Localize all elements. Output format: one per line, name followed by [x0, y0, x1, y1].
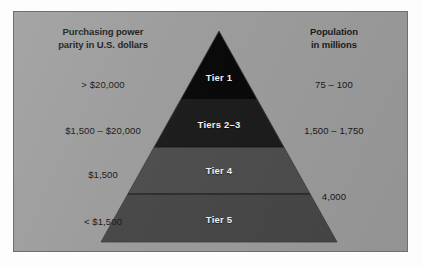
pyramid-label-tier4: Tier 4: [139, 165, 299, 176]
right-value-tier45: 4,000: [272, 191, 396, 202]
left-column-header: Purchasing power parity in U.S. dollars: [28, 26, 178, 51]
pyramid-divider-tier23-tier4: [74, 146, 364, 147]
right-column-header: Population in millions: [272, 26, 396, 51]
pyramid-label-tier1: Tier 1: [139, 72, 299, 83]
pyramid-label-tier23: Tiers 2–3: [139, 119, 299, 130]
figure-panel: Purchasing power parity in U.S. dollars …: [13, 11, 408, 252]
pyramid-label-tier5: Tier 5: [139, 214, 299, 225]
pyramid-figure: Purchasing power parity in U.S. dollars …: [0, 0, 422, 269]
